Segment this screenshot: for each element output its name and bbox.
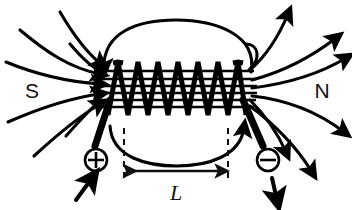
field-line-upper-left-3 [6,62,100,84]
current-arrow-out-icon [272,178,277,200]
field-lines-south [6,12,101,156]
bottom-return-loop [110,126,244,166]
terminal-negative [257,149,279,171]
field-line-lower-left-1 [8,94,100,122]
field-line-lower-right-1 [252,96,344,132]
coil-turn-cap-left [113,62,123,63]
terminal-positive [85,149,107,171]
current-arrow-in-icon [76,178,92,200]
field-line-upper-right-2 [252,38,336,80]
coil-turn-cap-right [233,62,243,63]
magnetic-field-diagram: L S N [0,0,352,210]
north-pole-label: N [314,79,329,102]
solenoid-field-figure: L S N [0,0,352,210]
south-pole-label: S [25,79,39,102]
length-label: L [169,180,182,205]
field-line-left-inner-lower [66,100,100,136]
